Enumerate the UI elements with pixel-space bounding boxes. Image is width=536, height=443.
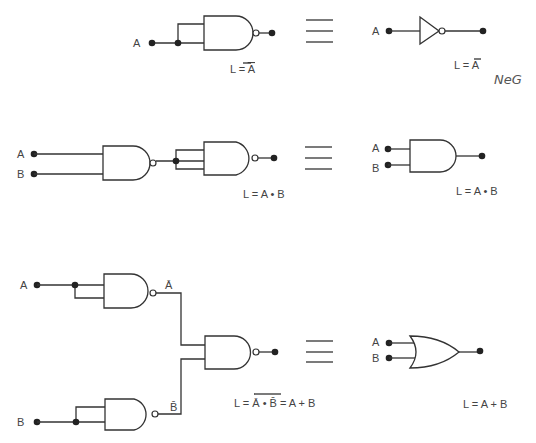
input-a-label: A (133, 37, 141, 49)
inversion-bubble (439, 28, 445, 34)
inversion-bubble (253, 30, 259, 36)
or-gate (410, 336, 459, 368)
junction-node (173, 158, 180, 165)
formula-label: L = A + B (463, 398, 507, 410)
b-bar-label: B̄ (170, 401, 177, 413)
nand-equivalence-diagram: A L = A A L = A NeG A B (0, 0, 536, 443)
input-a-label: A (20, 279, 28, 291)
input-b-label: B (17, 168, 24, 180)
formula-label: L = A (454, 59, 480, 71)
row1-nand-circuit: A L = A (133, 16, 275, 75)
formula-label: L = Ā • B̄ = A + B (234, 397, 315, 409)
input-node (149, 40, 156, 47)
input-b-label: B (372, 162, 379, 174)
input-a-label: A (17, 148, 25, 160)
handwritten-note: NeG (494, 72, 522, 87)
formula-label: L = A (230, 63, 256, 75)
nand-gate-b (105, 399, 146, 430)
junction-node (175, 40, 182, 47)
nand-gate-final (205, 336, 251, 369)
nand-gate-2 (204, 142, 249, 175)
row1-not-gate: A L = A NeG (372, 17, 522, 87)
row2-nand-circuit: A B L = A • B (17, 142, 285, 200)
input-a-label: A (372, 25, 380, 37)
equivalence-symbol (306, 20, 333, 42)
not-gate (420, 17, 439, 44)
input-a-label: A (372, 336, 380, 348)
input-a-label: A (372, 142, 380, 154)
formula-label: L = A • B (243, 188, 285, 200)
nand-gate (204, 16, 253, 50)
equivalence-symbol (306, 341, 333, 362)
equivalence-symbol (305, 147, 332, 169)
formula-label: L = A • B (456, 185, 498, 197)
output-node (269, 30, 276, 37)
input-b-label: B (372, 352, 379, 364)
and-gate (410, 140, 456, 172)
row2-and-gate: A B L = A • B (372, 140, 498, 197)
row3-or-gate: A B L = A + B (372, 336, 507, 410)
row3-nand-circuit: A Ā B B̄ L = Ā • B̄ = A + B (17, 274, 315, 430)
nand-gate-a (104, 274, 148, 308)
a-bar-label: Ā (165, 279, 173, 291)
input-b-label: B (17, 416, 24, 428)
nand-gate-1 (103, 146, 150, 180)
